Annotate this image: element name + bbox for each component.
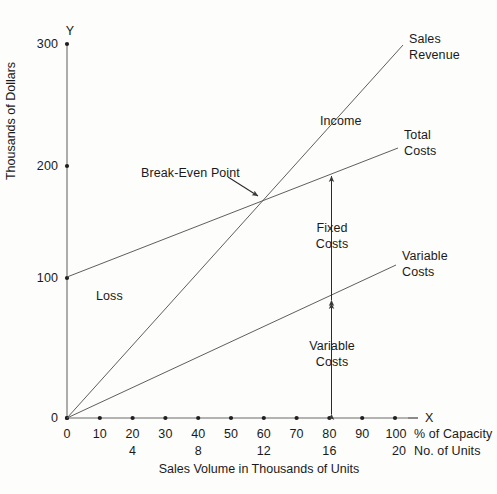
variable-costs-label-line1: Variable — [402, 249, 448, 264]
fixed-costs-span-label-line2: Costs — [316, 237, 348, 252]
x-secondary-tick-8: 8 — [195, 444, 202, 459]
x-tick-40: 40 — [191, 427, 205, 442]
loss-region-label: Loss — [96, 289, 123, 304]
total-costs-label-line1: Total — [404, 128, 431, 143]
y-tick-200: 200 — [37, 159, 58, 174]
chart-canvas — [0, 0, 497, 494]
sales-revenue-label-line2: Revenue — [409, 48, 460, 63]
y-tick-0: 0 — [51, 411, 58, 426]
y-tick-300: 300 — [37, 37, 58, 52]
x-tick-0: 0 — [63, 427, 70, 442]
fixed-costs-span-label-line1: Fixed — [316, 221, 347, 236]
x-tick-80: 80 — [322, 427, 336, 442]
x-axis-title: Sales Volume in Thousands of Units — [159, 462, 360, 476]
variable-costs-span-label-line1: Variable — [309, 339, 355, 354]
total-costs-label-line2: Costs — [404, 144, 436, 159]
sales-revenue-line — [67, 45, 403, 418]
x-tick-50: 50 — [224, 427, 238, 442]
x-tick-10: 10 — [93, 427, 107, 442]
break-even-point-label: Break-Even Point — [141, 166, 240, 181]
y-axis-letter: Y — [66, 24, 74, 39]
y-axis-title: Thousands of Dollars — [4, 46, 18, 196]
income-region-label: Income — [320, 114, 362, 129]
x-tick-30: 30 — [158, 427, 172, 442]
variable-costs-span-label-line2: Costs — [316, 355, 348, 370]
x-tick-100: 100 — [385, 427, 406, 442]
y-tick-100: 100 — [37, 271, 58, 286]
x-tick-20: 20 — [126, 427, 140, 442]
x-tick-60: 60 — [257, 427, 271, 442]
x-tick-70: 70 — [290, 427, 304, 442]
x-axis-letter: X — [425, 411, 433, 426]
x-secondary-tick-4: 4 — [129, 444, 136, 459]
x-axis-unit-pct-of-capacity: % of Capacity — [414, 427, 492, 442]
x-secondary-tick-12: 12 — [257, 444, 271, 459]
x-secondary-tick-16: 16 — [322, 444, 336, 459]
x-tick-90: 90 — [355, 427, 369, 442]
sales-revenue-label-line1: Sales — [409, 32, 441, 47]
x-secondary-tick-20: 20 — [392, 444, 406, 459]
break-even-chart-figure: Y X 300 200 100 0 Thousands of Dollars 0… — [0, 0, 497, 494]
x-axis-unit-no-of-units: No. of Units — [414, 444, 481, 459]
variable-costs-label-line2: Costs — [402, 265, 434, 280]
